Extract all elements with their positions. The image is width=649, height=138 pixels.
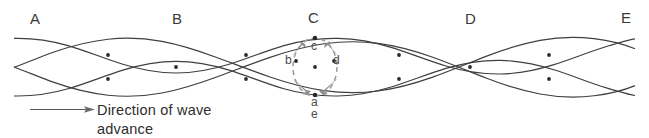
- intersection-dot: [468, 65, 472, 69]
- intersection-dot: [244, 77, 248, 81]
- intersection-dot: [174, 65, 178, 69]
- caption-direction-of-wave-advance: Direction of waveadvance: [97, 101, 212, 138]
- crest-label-b: B: [172, 11, 182, 26]
- intersection-dot: [106, 77, 110, 81]
- wave-curve-4: [14, 42, 635, 97]
- particle-dot-b: [294, 59, 298, 63]
- caption-line-1: Direction of wave: [97, 102, 212, 118]
- direction-arrow-group: [30, 106, 95, 113]
- crest-label-c: C: [308, 10, 319, 25]
- intersection-dot: [397, 77, 401, 81]
- caption-line-2: advance: [97, 121, 153, 137]
- crest-label-e: E: [621, 10, 631, 25]
- crest-label-d: D: [465, 11, 476, 26]
- particle-label-b: b: [285, 54, 292, 66]
- intersection-dot: [547, 77, 551, 81]
- particle-label-c: c: [311, 40, 317, 52]
- wave-curve-3: [14, 37, 635, 92]
- intersection-dot: [547, 53, 551, 57]
- particle-label-e: e: [311, 108, 318, 120]
- particle-label-d: d: [333, 54, 340, 66]
- intersection-dot: [397, 53, 401, 57]
- wave-diagram-figure: A B C D E c b d a e Direction of waveadv…: [0, 0, 649, 138]
- intersection-dot: [313, 65, 317, 69]
- intersection-dot: [244, 53, 248, 57]
- intersection-dot: [106, 53, 110, 57]
- crest-label-a: A: [30, 11, 40, 26]
